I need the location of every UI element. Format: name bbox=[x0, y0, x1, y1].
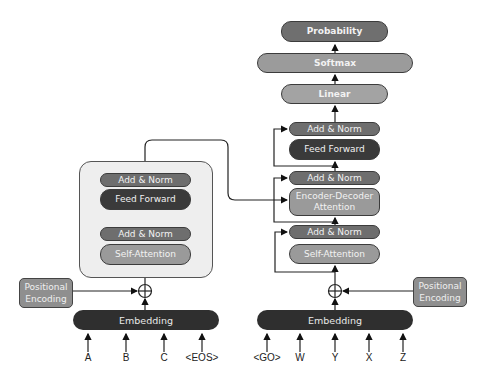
decoder-embedding-label: Embedding bbox=[308, 315, 362, 326]
decoder-input-token: W bbox=[295, 352, 304, 363]
softmax-layer: Softmax bbox=[257, 53, 413, 73]
decoder-add-norm-mid-label: Add & Norm bbox=[307, 173, 362, 184]
encoder-add-norm-bottom-label: Add & Norm bbox=[118, 229, 173, 240]
decoder-positional-encoding-label: Positional Encoding bbox=[414, 280, 466, 304]
decoder-self-attention: Self-Attention bbox=[289, 244, 380, 264]
decoder-add-norm-top-label: Add & Norm bbox=[307, 124, 362, 135]
decoder-input-token: <GO> bbox=[253, 352, 280, 363]
decoder-encoder-decoder-attention-label: Encoder-Decoder Attention bbox=[290, 191, 379, 213]
probability-layer: Probability bbox=[281, 21, 388, 42]
softmax-label: Softmax bbox=[314, 58, 356, 69]
encoder-self-attention: Self-Attention bbox=[100, 244, 191, 265]
decoder-add-norm-bottom: Add & Norm bbox=[289, 225, 380, 239]
decoder-feed-forward: Feed Forward bbox=[289, 139, 380, 160]
decoder-input-token: X bbox=[366, 352, 373, 363]
decoder-add-norm-mid: Add & Norm bbox=[289, 171, 380, 185]
decoder-feed-forward-label: Feed Forward bbox=[304, 144, 365, 155]
encoder-embedding: Embedding bbox=[73, 310, 219, 330]
encoder-self-attention-label: Self-Attention bbox=[115, 249, 176, 260]
encoder-add-norm-bottom: Add & Norm bbox=[100, 227, 191, 241]
decoder-encoder-decoder-attention: Encoder-Decoder Attention bbox=[289, 188, 380, 216]
encoder-positional-encoding: Positional Encoding bbox=[19, 278, 73, 308]
linear-layer: Linear bbox=[281, 84, 388, 104]
decoder-positional-encoding: Positional Encoding bbox=[413, 277, 467, 307]
linear-label: Linear bbox=[319, 89, 351, 100]
decoder-input-token: Z bbox=[400, 352, 406, 363]
encoder-feed-forward-label: Feed Forward bbox=[115, 194, 176, 205]
encoder-add-norm-top-label: Add & Norm bbox=[118, 175, 173, 186]
encoder-positional-encoding-label: Positional Encoding bbox=[20, 281, 72, 305]
encoder-input-token: <EOS> bbox=[186, 352, 219, 363]
decoder-input-token: Y bbox=[332, 352, 339, 363]
decoder-self-attention-label: Self-Attention bbox=[304, 249, 365, 260]
encoder-add-norm-top: Add & Norm bbox=[100, 173, 191, 187]
encoder-feed-forward: Feed Forward bbox=[100, 189, 191, 210]
decoder-add-norm-bottom-label: Add & Norm bbox=[307, 227, 362, 238]
encoder-input-token: B bbox=[123, 352, 130, 363]
decoder-embedding: Embedding bbox=[257, 310, 413, 330]
probability-label: Probability bbox=[307, 26, 363, 37]
decoder-add-norm-top: Add & Norm bbox=[289, 122, 380, 136]
encoder-embedding-label: Embedding bbox=[119, 315, 173, 326]
encoder-input-token: A bbox=[85, 352, 92, 363]
encoder-input-token: C bbox=[160, 352, 167, 363]
